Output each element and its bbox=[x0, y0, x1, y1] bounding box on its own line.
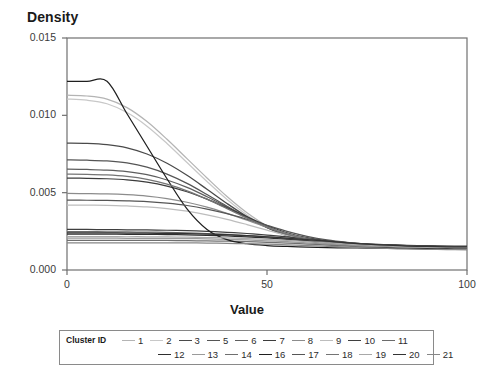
legend-item-label: 21 bbox=[443, 349, 454, 360]
legend-item-19[interactable]: 19 bbox=[359, 349, 390, 360]
legend-item-label: 2 bbox=[166, 335, 171, 346]
legend-item-20[interactable]: 20 bbox=[393, 349, 424, 360]
legend-item-label: 10 bbox=[364, 335, 375, 346]
legend-line-swatch bbox=[326, 354, 339, 355]
series-line-7 bbox=[67, 178, 467, 246]
legend-line-swatch bbox=[393, 354, 406, 355]
legend-item-label: 14 bbox=[241, 349, 252, 360]
legend-line-swatch bbox=[348, 340, 361, 341]
legend-line-swatch bbox=[192, 354, 205, 355]
legend-item-16[interactable]: 16 bbox=[259, 349, 290, 360]
legend-item-label: 8 bbox=[308, 335, 313, 346]
legend-item-7[interactable]: 7 bbox=[263, 335, 288, 346]
legend-item-label: 9 bbox=[336, 335, 341, 346]
legend-item-label: 12 bbox=[174, 349, 185, 360]
legend-line-swatch bbox=[179, 340, 192, 341]
y-tick-label: 0.000 bbox=[8, 263, 56, 275]
legend: Cluster ID 123567891011 1213141617181920… bbox=[59, 330, 434, 365]
legend-line-swatch bbox=[150, 340, 163, 341]
series-line-16 bbox=[67, 79, 467, 249]
legend-line-swatch bbox=[259, 354, 272, 355]
legend-item-14[interactable]: 14 bbox=[225, 349, 256, 360]
legend-item-label: 5 bbox=[223, 335, 228, 346]
legend-item-1[interactable]: 1 bbox=[122, 335, 147, 346]
legend-line-swatch bbox=[235, 340, 248, 341]
legend-item-label: 16 bbox=[275, 349, 286, 360]
legend-line-swatch bbox=[359, 354, 372, 355]
legend-item-label: 20 bbox=[409, 349, 420, 360]
legend-item-5[interactable]: 5 bbox=[207, 335, 232, 346]
legend-item-17[interactable]: 17 bbox=[292, 349, 323, 360]
density-line-chart bbox=[0, 0, 494, 381]
legend-line-swatch bbox=[292, 354, 305, 355]
series-group bbox=[67, 79, 467, 250]
legend-item-10[interactable]: 10 bbox=[348, 335, 379, 346]
x-tick-label: 50 bbox=[247, 278, 287, 290]
legend-item-3[interactable]: 3 bbox=[179, 335, 204, 346]
legend-item-2[interactable]: 2 bbox=[150, 335, 175, 346]
legend-line-swatch bbox=[427, 354, 440, 355]
legend-item-label: 17 bbox=[308, 349, 319, 360]
legend-item-label: 7 bbox=[279, 335, 284, 346]
x-axis-title: Value bbox=[0, 302, 494, 317]
legend-item-label: 19 bbox=[375, 349, 386, 360]
legend-row: 123567891011 bbox=[122, 334, 415, 346]
legend-line-swatch bbox=[122, 340, 135, 341]
legend-line-swatch bbox=[158, 354, 171, 355]
y-tick-label: 0.005 bbox=[8, 186, 56, 198]
legend-item-label: 6 bbox=[251, 335, 256, 346]
legend-item-13[interactable]: 13 bbox=[192, 349, 223, 360]
y-tick-label: 0.015 bbox=[8, 31, 56, 43]
legend-line-swatch bbox=[207, 340, 220, 341]
legend-item-label: 1 bbox=[138, 335, 143, 346]
legend-item-9[interactable]: 9 bbox=[320, 335, 345, 346]
legend-item-12[interactable]: 12 bbox=[158, 349, 189, 360]
x-tick-label: 0 bbox=[47, 278, 87, 290]
legend-item-18[interactable]: 18 bbox=[326, 349, 357, 360]
legend-item-label: 13 bbox=[208, 349, 219, 360]
legend-item-label: 11 bbox=[398, 335, 408, 346]
legend-line-swatch bbox=[320, 340, 333, 341]
legend-line-swatch bbox=[263, 340, 276, 341]
legend-row: 121314161718192021 bbox=[158, 348, 460, 360]
legend-line-swatch bbox=[382, 340, 395, 341]
legend-item-21[interactable]: 21 bbox=[427, 349, 458, 360]
legend-item-11[interactable]: 11 bbox=[382, 335, 412, 346]
legend-item-label: 18 bbox=[342, 349, 353, 360]
chart-page: Density Value Cluster ID 123567891011 12… bbox=[0, 0, 494, 381]
legend-line-swatch bbox=[225, 354, 238, 355]
legend-item-8[interactable]: 8 bbox=[292, 335, 317, 346]
legend-item-6[interactable]: 6 bbox=[235, 335, 260, 346]
x-tick-label: 100 bbox=[447, 278, 487, 290]
y-tick-label: 0.010 bbox=[8, 108, 56, 120]
legend-item-label: 3 bbox=[195, 335, 200, 346]
legend-line-swatch bbox=[292, 340, 305, 341]
legend-title: Cluster ID bbox=[66, 335, 106, 345]
